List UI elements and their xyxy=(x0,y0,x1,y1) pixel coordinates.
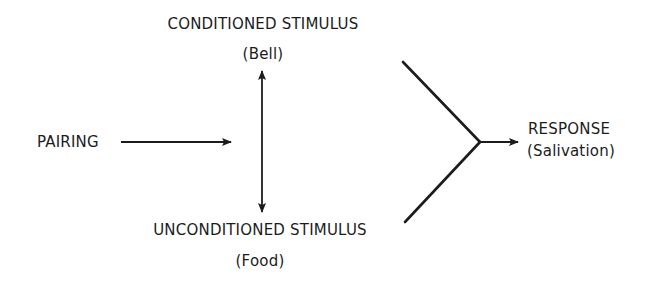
response-title: RESPONSE xyxy=(528,120,610,138)
unconditioned-stimulus-subtitle: (Food) xyxy=(236,252,285,270)
converging-lines xyxy=(403,62,480,222)
conditioned-stimulus-subtitle: (Bell) xyxy=(243,45,284,63)
conditioned-stimulus-title: CONDITIONED STIMULUS xyxy=(167,15,358,33)
response-subtitle: (Salivation) xyxy=(527,142,615,160)
pairing-label: PAIRING xyxy=(37,133,99,151)
unconditioned-stimulus-title: UNCONDITIONED STIMULUS xyxy=(153,221,367,239)
